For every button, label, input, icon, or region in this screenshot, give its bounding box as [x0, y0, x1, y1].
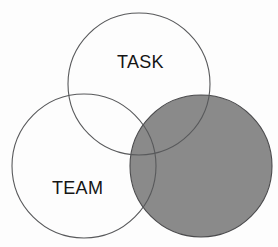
venn-label-team: TEAM [52, 179, 103, 197]
venn-circle-team [12, 94, 156, 238]
venn-diagram-svg [0, 0, 278, 247]
venn-label-task: TASK [117, 53, 164, 71]
venn-diagram: TASK TEAM [0, 0, 278, 247]
